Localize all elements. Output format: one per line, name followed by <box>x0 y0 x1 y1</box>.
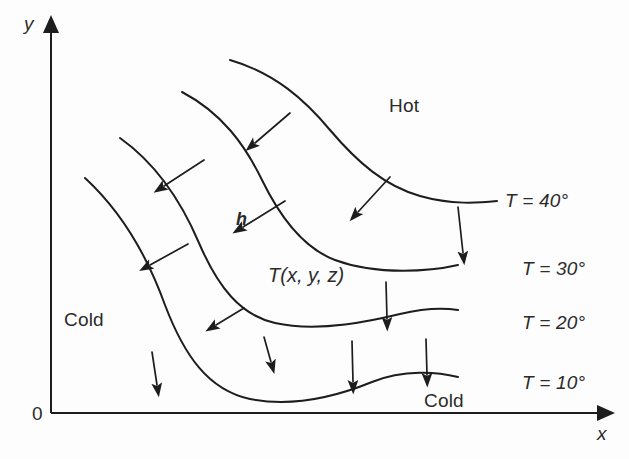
isotherm-40-label: T = 40° <box>505 191 568 210</box>
flux-arrow-3 <box>358 177 390 212</box>
isotherm-40 <box>230 60 497 203</box>
flux-arrow-6 <box>150 244 188 265</box>
origin-label: 0 <box>32 404 43 423</box>
flux-arrow-7 <box>216 308 244 325</box>
flux-arrow-2 <box>255 113 290 143</box>
flux-arrow-8 <box>386 282 387 319</box>
cold-region-label-left: Cold <box>64 310 104 329</box>
isotherm-curves-group <box>85 60 497 402</box>
flux-arrow-5 <box>458 207 463 253</box>
temperature-function-label: T(x, y, z) <box>268 265 344 285</box>
flux-arrow-10 <box>352 341 353 382</box>
axes-group <box>51 30 600 413</box>
flux-arrow-11 <box>426 339 427 375</box>
gradient-vector-label: h <box>236 210 247 228</box>
isotherm-10 <box>85 178 458 402</box>
flux-arrow-4 <box>243 201 285 227</box>
isotherm-20-label: T = 20° <box>522 313 585 332</box>
isotherm-30-label: T = 30° <box>522 259 585 278</box>
flux-arrows-group <box>150 113 463 385</box>
isotherm-10-label: T = 10° <box>522 373 585 392</box>
x-axis-label: x <box>597 424 607 443</box>
hot-region-label: Hot <box>389 96 419 115</box>
isotherm-20 <box>120 138 458 327</box>
y-axis-label: y <box>24 14 34 33</box>
temperature-field-figure: y x 0 Hot Cold Cold T(x, y, z) h T = 40°… <box>0 0 629 459</box>
flux-arrow-12 <box>152 352 157 385</box>
cold-region-label-bottom: Cold <box>424 391 464 410</box>
flux-arrow-9 <box>264 337 271 362</box>
flux-arrow-1 <box>164 160 204 186</box>
